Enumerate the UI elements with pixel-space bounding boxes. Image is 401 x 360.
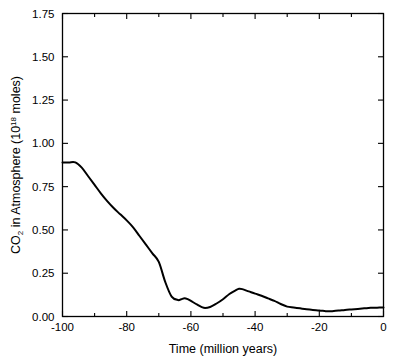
y-tick-label: 0.25 (32, 267, 54, 279)
x-tick-label: -80 (118, 321, 135, 333)
x-tick-label: -20 (311, 321, 328, 333)
y-tick-label: 1.00 (32, 137, 54, 149)
x-tick-label: -60 (183, 321, 200, 333)
x-axis-title: Time (million years) (169, 342, 278, 356)
co2-atmosphere-line-chart: -100-80-60-40-200 0.000.250.500.751.001.… (0, 0, 401, 360)
chart-figure: -100-80-60-40-200 0.000.250.500.751.001.… (0, 0, 401, 360)
x-tick-label: -40 (247, 321, 264, 333)
y-axis-title: CO2 in Atmosphere (1018 moles) (9, 76, 26, 254)
y-tick-label: 0.75 (32, 181, 54, 193)
y-tick-label: 0.50 (32, 224, 54, 236)
y-tick-label: 1.25 (32, 94, 54, 106)
y-tick-label: 1.75 (32, 8, 54, 20)
y-tick-label: 0.00 (32, 311, 54, 323)
x-tick-label: 0 (380, 321, 386, 333)
y-tick-label: 1.50 (32, 51, 54, 63)
